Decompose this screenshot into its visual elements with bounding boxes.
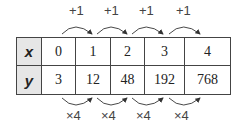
top-arrow-1 xyxy=(62,27,92,34)
top-arrow-3 xyxy=(132,27,163,34)
x-cell: 0 xyxy=(42,38,76,66)
bottom-arrow-2 xyxy=(97,98,127,105)
y-cell: 768 xyxy=(185,66,230,94)
top-arrow-2 xyxy=(97,27,127,34)
top-arrow-4 xyxy=(169,27,200,34)
bottom-label-2: ×4 xyxy=(101,108,116,123)
bottom-arrow-4 xyxy=(169,98,200,105)
y-cell: 3 xyxy=(42,66,76,94)
top-label-4: +1 xyxy=(176,3,191,18)
bottom-label-4: ×4 xyxy=(174,108,189,123)
bottom-label-1: ×4 xyxy=(66,108,81,123)
y-cell: 48 xyxy=(111,66,145,94)
top-label-2: +1 xyxy=(104,3,119,18)
bottom-arrow-3 xyxy=(132,98,163,105)
top-label-3: +1 xyxy=(139,3,154,18)
xy-table: x 0 1 2 3 4 y 3 12 48 192 768 xyxy=(16,37,231,95)
bottom-arrow-1 xyxy=(62,98,92,105)
top-label-1: +1 xyxy=(69,3,84,18)
x-cell: 2 xyxy=(111,38,145,66)
row-label-y: y xyxy=(17,66,42,94)
y-cell: 12 xyxy=(76,66,111,94)
x-cell: 4 xyxy=(185,38,230,66)
x-cell: 3 xyxy=(145,38,185,66)
y-cell: 192 xyxy=(145,66,185,94)
row-label-x: x xyxy=(17,38,42,66)
bottom-label-3: ×4 xyxy=(136,108,151,123)
x-cell: 1 xyxy=(76,38,111,66)
